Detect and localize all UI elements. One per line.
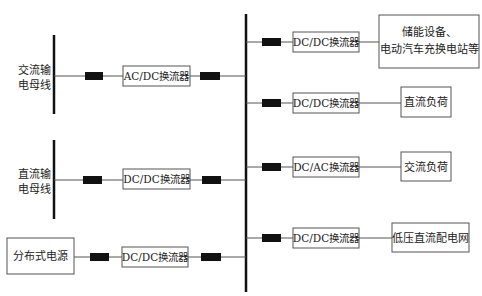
output-branch-ac-load: DC/AC换流器 交流负荷 — [246, 152, 451, 181]
breaker-icon — [262, 38, 281, 46]
output-branch-lv-dc-grid: DC/DC换流器 低压直流配电网 — [246, 223, 469, 252]
dc-ac-converter-label: DC/AC换流器 — [293, 161, 360, 173]
dc-input-branch: DC/DC换流器 — [54, 169, 246, 189]
dc-transmission-bus: 直流输 电母线 — [18, 140, 54, 219]
output-branch-storage: DC/DC换流器 储能设备、 电动汽车充换电站等 — [246, 15, 479, 68]
breaker-icon — [262, 234, 281, 242]
dc-dc-converter-2-label: DC/DC换流器 — [293, 97, 360, 109]
breaker-icon — [202, 176, 221, 184]
breaker-icon — [83, 176, 102, 184]
dc-load-label: 直流负荷 — [404, 95, 448, 109]
dc-dc-converter-bus-label: DC/DC换流器 — [123, 173, 190, 185]
ac-input-branch: AC/DC换流器 — [54, 66, 246, 86]
ac-dc-converter-label: AC/DC换流器 — [123, 70, 191, 82]
dc-dc-converter-4-label: DC/DC换流器 — [293, 232, 360, 244]
dc-bus-label-1: 直流输 — [18, 167, 51, 181]
breaker-icon — [85, 72, 103, 80]
breaker-icon — [262, 99, 281, 107]
breaker-icon — [200, 72, 220, 80]
dc-dc-converter-source-label: DC/DC换流器 — [122, 251, 189, 263]
breaker-icon — [262, 163, 281, 171]
distributed-source-branch: 分布式电源 DC/DC换流器 — [7, 238, 246, 274]
ac-bus-label-1: 交流输 — [18, 63, 51, 77]
dc-bus-label-2: 电母线 — [18, 182, 51, 196]
breaker-icon — [201, 253, 221, 261]
lv-dc-grid-label: 低压直流配电网 — [392, 231, 469, 245]
output-branch-dc-load: DC/DC换流器 直流负荷 — [246, 87, 451, 117]
storage-ev-label-2: 电动汽车充换电站等 — [380, 42, 479, 56]
ac-load-label: 交流负荷 — [404, 160, 448, 174]
ac-bus-label-2: 电母线 — [18, 78, 51, 92]
ac-transmission-bus: 交流输 电母线 — [18, 35, 54, 114]
storage-ev-label-1: 储能设备、 — [402, 25, 457, 39]
distributed-source-label: 分布式电源 — [13, 249, 68, 263]
dc-distribution-diagram: 交流输 电母线 直流输 电母线 AC/DC换流器 DC/DC换流器 分布式电源 … — [0, 0, 482, 296]
storage-ev-box — [379, 15, 479, 68]
breaker-icon — [90, 253, 109, 261]
dc-dc-converter-1-label: DC/DC换流器 — [293, 36, 360, 48]
